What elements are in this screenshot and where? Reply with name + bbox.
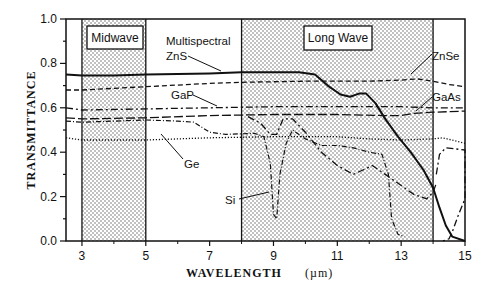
x-tick-label: 3 xyxy=(79,249,86,263)
y-axis-title: TRANSMITTANCE xyxy=(24,71,38,190)
y-tick-label: 0.0 xyxy=(40,234,57,248)
y-tick-label: 1.0 xyxy=(40,12,57,26)
zns-leader xyxy=(188,56,221,71)
x-tick-label: 7 xyxy=(206,249,213,263)
annotation-gaas: GaAs xyxy=(432,91,461,103)
x-tick-label: 9 xyxy=(270,249,277,263)
y-tick-label: 0.6 xyxy=(40,101,57,115)
x-axis-unit: (µm) xyxy=(305,266,333,280)
annotation-znse: ZnSe xyxy=(432,50,460,62)
y-tick-label: 0.4 xyxy=(40,145,57,159)
gap-leader xyxy=(193,95,217,106)
series-znse-si-tail-14-15 xyxy=(436,148,465,241)
annotation-gap: GaP xyxy=(171,89,194,101)
x-tick-label: 5 xyxy=(142,249,149,263)
annotation-ge: Ge xyxy=(184,158,199,170)
y-tick-label: 0.8 xyxy=(40,56,57,70)
spectral-bands xyxy=(82,19,433,241)
annotation-si: Si xyxy=(225,194,235,206)
annotation-zns: ZnS xyxy=(166,50,187,62)
x-tick-label: 13 xyxy=(394,249,408,263)
midwave-label: Midwave xyxy=(91,31,139,45)
x-tick-label: 15 xyxy=(458,249,472,263)
band-long-wave xyxy=(242,19,434,241)
x-axis-title: WAVELENGTH xyxy=(186,266,282,280)
longwave-label: Long Wave xyxy=(308,31,369,45)
y-tick-label: 0.2 xyxy=(40,190,57,204)
ge-leader xyxy=(161,134,183,159)
annotation-multispectral: Multispectral xyxy=(166,35,231,47)
band-midwave xyxy=(82,19,146,241)
transmittance-chart: 35791113150.00.20.40.60.81.0 Midwave Lon… xyxy=(0,0,488,294)
x-tick-label: 11 xyxy=(331,249,344,263)
